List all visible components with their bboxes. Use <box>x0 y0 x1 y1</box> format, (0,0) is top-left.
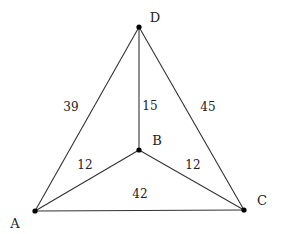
label-d: D <box>150 10 160 25</box>
node-a <box>32 208 37 213</box>
label-a: A <box>9 216 20 231</box>
label-b: B <box>152 133 162 148</box>
edges <box>35 27 244 211</box>
weight-a-b: 12 <box>77 158 92 172</box>
label-c: C <box>257 193 267 208</box>
weight-b-d: 15 <box>142 99 157 113</box>
edge-c-d <box>139 27 244 210</box>
weight-c-d: 45 <box>200 100 215 114</box>
weight-a-c: 42 <box>132 187 147 201</box>
node-b <box>136 147 141 152</box>
weight-b-c: 12 <box>185 158 200 172</box>
graph-diagram: 39 15 45 12 12 42 A B C D <box>0 0 283 234</box>
node-c <box>241 207 246 212</box>
node-d <box>136 24 141 29</box>
edge-a-c <box>35 210 244 211</box>
edge-a-d <box>35 27 139 211</box>
weight-a-d: 39 <box>63 100 78 114</box>
